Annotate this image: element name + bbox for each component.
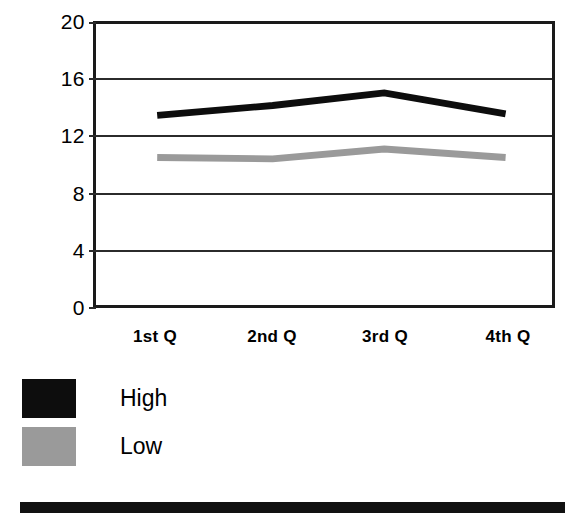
legend-item-high: High <box>22 379 322 427</box>
y-tick-mark-8 <box>89 193 96 195</box>
y-tick-label-0: 0 <box>73 297 85 318</box>
series-line-high <box>157 93 505 115</box>
series-line-low <box>157 149 505 159</box>
line-chart-figure: 20 16 12 8 4 0 1st Q 2nd Q 3rd Q 4th Q <box>0 0 583 522</box>
x-axis-category-labels: 1st Q 2nd Q 3rd Q 4th Q <box>93 327 555 351</box>
y-tick-mark-12 <box>89 135 96 137</box>
legend-label-low: Low <box>120 435 162 458</box>
y-tick-mark-20 <box>89 22 96 24</box>
legend-swatch-low-icon <box>22 427 76 466</box>
data-series-overlay <box>96 24 552 305</box>
legend-label-high: High <box>120 387 167 410</box>
y-tick-mark-4 <box>89 250 96 252</box>
plot-area <box>93 21 555 308</box>
x-label-1st-q: 1st Q <box>133 327 177 347</box>
y-tick-label-16: 16 <box>61 68 85 89</box>
y-tick-mark-16 <box>89 78 96 80</box>
x-label-2nd-q: 2nd Q <box>247 327 297 347</box>
y-tick-label-20: 20 <box>61 11 85 32</box>
legend-item-low: Low <box>22 427 322 475</box>
legend-swatch-high-icon <box>22 379 76 418</box>
chart-legend: High Low <box>22 379 322 475</box>
y-tick-mark-0 <box>89 307 96 309</box>
x-label-4th-q: 4th Q <box>486 327 531 347</box>
y-axis-tick-labels: 20 16 12 8 4 0 <box>40 0 85 330</box>
bottom-rule-divider <box>20 502 565 513</box>
y-tick-label-4: 4 <box>73 240 85 261</box>
y-tick-label-12: 12 <box>61 125 85 146</box>
y-tick-label-8: 8 <box>73 183 85 204</box>
x-label-3rd-q: 3rd Q <box>362 327 408 347</box>
